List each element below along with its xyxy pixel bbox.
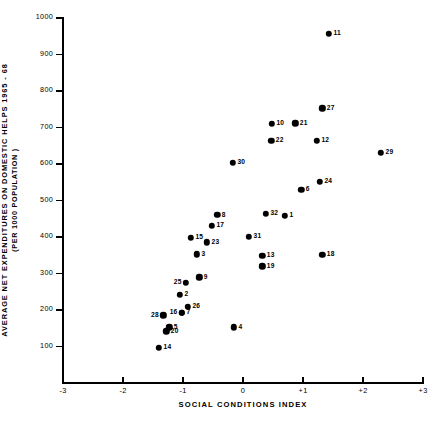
data-point-label-1: 1 [290, 211, 294, 218]
data-point-label-28: 28 [151, 310, 159, 317]
y-tick-label: 700 [40, 122, 53, 131]
data-point-label-16: 16 [170, 308, 178, 315]
x-tick-label: -1 [179, 386, 186, 395]
data-point-6[interactable] [298, 187, 304, 193]
data-point-23[interactable] [204, 239, 210, 245]
data-point-11[interactable] [326, 31, 332, 37]
data-point-label-22: 22 [276, 136, 284, 143]
y-tick-300: 300 [56, 273, 63, 274]
data-point-label-3: 3 [201, 249, 205, 256]
data-point-label-6: 6 [306, 185, 310, 192]
y-tick-700: 700 [56, 127, 63, 128]
data-point-label-32: 32 [270, 209, 278, 216]
data-point-32[interactable] [263, 211, 269, 217]
scatter-plot-figure: AVERAGE NET EXPENDITURES ON DOMESTIC HEL… [0, 0, 443, 421]
data-point-27[interactable] [319, 105, 325, 111]
data-point-29[interactable] [378, 150, 384, 156]
data-point-label-26: 26 [192, 302, 200, 309]
y-axis-label-line1: AVERAGE NET EXPENDITURES ON DOMESTIC HEL… [0, 63, 9, 336]
data-point-22[interactable] [268, 138, 274, 144]
y-tick-600: 600 [56, 163, 63, 164]
data-point-2[interactable] [177, 292, 183, 298]
y-tick-800: 800 [56, 90, 63, 91]
data-point-18[interactable] [319, 252, 325, 258]
data-point-label-8: 8 [222, 210, 226, 217]
x-tick-0: 0 [242, 377, 243, 384]
y-tick-label: 300 [40, 268, 53, 277]
data-point-label-7: 7 [186, 308, 190, 315]
data-point-label-4: 4 [239, 322, 243, 329]
y-tick-label: 100 [40, 341, 53, 350]
y-tick-500: 500 [56, 200, 63, 201]
y-tick-100: 100 [56, 346, 63, 347]
x-tick-label: +3 [419, 386, 428, 395]
data-point-label-13: 13 [267, 251, 275, 258]
data-point-13[interactable] [259, 253, 265, 259]
data-point-label-29: 29 [386, 148, 394, 155]
x-tick-label: -2 [119, 386, 126, 395]
y-tick-label: 200 [40, 304, 53, 313]
y-tick-label: 400 [40, 231, 53, 240]
data-point-10[interactable] [269, 121, 275, 127]
x-tick-label: -3 [59, 386, 66, 395]
x-tick-+3: +3 [422, 377, 423, 384]
data-point-label-18: 18 [327, 250, 335, 257]
x-tick-label: +2 [359, 386, 368, 395]
data-point-label-27: 27 [327, 103, 335, 110]
y-tick-400: 400 [56, 236, 63, 237]
data-point-8[interactable] [214, 212, 220, 218]
data-point-1[interactable] [282, 213, 288, 219]
data-point-19[interactable] [259, 263, 265, 269]
data-point-label-9: 9 [204, 272, 208, 279]
data-point-12[interactable] [314, 138, 320, 144]
data-point-31[interactable] [246, 234, 252, 240]
data-point-label-23: 23 [212, 237, 220, 244]
data-point-24[interactable] [317, 179, 323, 185]
data-point-label-17: 17 [216, 221, 224, 228]
x-tick-+2: +2 [362, 377, 363, 384]
data-point-9[interactable] [196, 274, 202, 280]
data-point-label-21: 21 [300, 118, 308, 125]
data-point-label-30: 30 [237, 158, 245, 165]
data-point-3[interactable] [194, 251, 200, 257]
y-tick-200: 200 [56, 309, 63, 310]
y-tick-1000: 1000 [56, 17, 63, 18]
y-tick-label: 1000 [36, 12, 53, 21]
data-point-7[interactable] [179, 310, 185, 316]
data-point-label-25: 25 [174, 278, 182, 285]
data-point-label-15: 15 [195, 233, 203, 240]
x-tick-+1: +1 [302, 377, 303, 384]
data-point-label-11: 11 [333, 29, 340, 36]
x-tick--3: -3 [62, 377, 63, 384]
data-point-15[interactable] [188, 235, 194, 241]
x-tick--1: -1 [182, 377, 183, 384]
data-point-label-10: 10 [276, 119, 284, 126]
x-axis-label: SOCIAL CONDITIONS INDEX [63, 400, 423, 409]
data-point-label-2: 2 [185, 290, 189, 297]
x-tick-label: +1 [299, 386, 308, 395]
data-point-14[interactable] [156, 345, 162, 351]
data-point-label-24: 24 [324, 177, 332, 184]
data-point-28[interactable] [160, 312, 166, 318]
data-point-21[interactable] [292, 120, 298, 126]
data-point-17[interactable] [209, 223, 215, 229]
data-point-25[interactable] [183, 280, 189, 286]
data-point-label-14: 14 [164, 343, 172, 350]
data-point-label-12: 12 [321, 136, 329, 143]
y-tick-label: 600 [40, 158, 53, 167]
x-tick-label: 0 [241, 386, 245, 395]
y-tick-label: 800 [40, 85, 53, 94]
data-point-label-19: 19 [267, 261, 275, 268]
y-axis-label: AVERAGE NET EXPENDITURES ON DOMESTIC HEL… [0, 0, 30, 421]
x-tick--2: -2 [122, 377, 123, 384]
y-axis-label-line2: (PER 1000 POPULATION ) [10, 5, 20, 395]
data-point-label-31: 31 [254, 232, 262, 239]
data-point-label-20: 20 [171, 326, 179, 333]
data-point-4[interactable] [231, 324, 237, 330]
y-tick-label: 900 [40, 49, 53, 58]
data-point-20[interactable] [163, 328, 169, 334]
data-point-30[interactable] [230, 160, 236, 166]
y-tick-900: 900 [56, 54, 63, 55]
y-tick-label: 500 [40, 195, 53, 204]
